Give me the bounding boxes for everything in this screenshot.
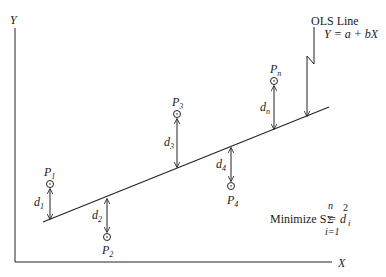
point-label-p3: P3	[171, 95, 183, 111]
point-label-pn: Pn	[269, 62, 281, 78]
residual-label-d3: d3	[164, 135, 174, 151]
residual-label-d2: d2	[92, 208, 102, 224]
ols-label-equation: Y = a + bX	[324, 27, 379, 41]
point-p3: P3 d3	[164, 95, 183, 167]
point-label-p2: P2	[101, 243, 113, 259]
point-label-p4: P4	[226, 193, 238, 209]
residual-label-d1: d1	[34, 195, 44, 211]
y-axis-label: Y	[10, 13, 18, 27]
ols-regression-line	[43, 107, 329, 222]
minimize-formula: Minimize S = Σ n i=1 d 2 i	[270, 200, 351, 237]
formula-exponent: 2	[343, 202, 348, 213]
residual-label-d4: d4	[216, 157, 226, 173]
point-pn: Pn dn	[260, 62, 281, 129]
formula-upper-limit: n	[328, 200, 333, 211]
ols-diagram: Y X OLS Line Y = a + bX P1 d1 P2 d2 P3 d…	[0, 0, 386, 277]
point-p2: P2 d2	[92, 199, 113, 259]
formula-index: i	[348, 218, 351, 228]
point-p1: P1 d1	[34, 165, 55, 219]
ols-label-title: OLS Line	[311, 14, 359, 28]
axes: Y X	[10, 13, 346, 270]
formula-lower-limit: i=1	[325, 226, 340, 237]
formula-sigma: Σ	[327, 213, 333, 225]
zigzag-pointer-arrow	[307, 27, 314, 116]
point-label-p1: P1	[43, 165, 55, 181]
formula-term: d	[340, 212, 347, 226]
residual-label-dn: dn	[260, 100, 270, 116]
ols-callout: OLS Line Y = a + bX	[307, 14, 379, 116]
point-p4: P4 d4	[216, 148, 238, 209]
x-axis-label: X	[337, 256, 346, 270]
